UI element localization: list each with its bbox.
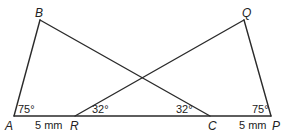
point-label-R: R [70,119,79,133]
point-label-A: A [4,119,13,133]
segment-BC [40,20,210,116]
point-label-B: B [35,6,43,20]
point-label-Q: Q [242,6,251,20]
segment-RQ [75,20,244,116]
length-label-AR: 5 mm [35,119,63,131]
point-label-P: P [272,119,280,133]
angle-label-C: 32° [176,103,193,115]
angle-label-P: 75° [252,103,269,115]
angle-label-R: 32° [92,103,109,115]
segment-QP [244,20,271,116]
angle-label-A: 75° [18,103,35,115]
point-label-C: C [208,119,217,133]
geometry-diagram: B Q A R C P 75° 32° 32° 75° 5 mm 5 mm [0,0,287,137]
length-label-CP: 5 mm [239,119,267,131]
segment-AB [14,20,40,116]
